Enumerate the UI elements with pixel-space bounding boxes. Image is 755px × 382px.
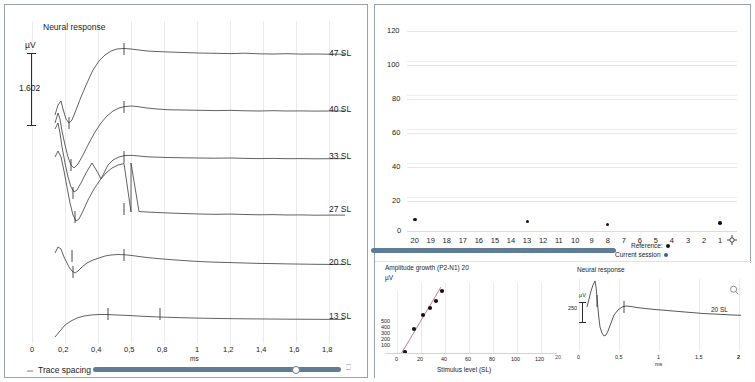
legend-item-reference: Reference: [631, 242, 670, 249]
gridline-h [407, 133, 737, 134]
amplitude-growth-chart[interactable]: Amplitude growth (P2-N1) 20 µV 500 400 3… [375, 263, 561, 379]
x-tick: 0,5 [615, 355, 623, 361]
legend-label-reference: Reference: [631, 242, 663, 249]
x-tick: 4 [670, 237, 674, 245]
x-tick: 20 [411, 237, 419, 245]
gridline-h [407, 197, 737, 198]
scatter-point[interactable] [526, 220, 529, 223]
x-tick: 40 [441, 357, 447, 363]
x-tick: 1 [657, 355, 660, 361]
gridline-h [407, 31, 737, 32]
application-root: Neural response µV 1.602 47 SL 40 SL 33 … [0, 0, 755, 382]
trace-label-20sl: 20 SL [329, 258, 351, 267]
x-tick: 12 [539, 237, 547, 245]
magnifier-icon[interactable] [729, 285, 740, 296]
x-tick: 18 [443, 237, 451, 245]
trace-label-47sl: 47 SL [329, 49, 351, 58]
x-tick: 11 [555, 237, 563, 245]
section-divider [375, 261, 752, 262]
panel-title: Neural response [43, 23, 105, 32]
x-tick: 8 [606, 237, 610, 245]
y-tick: 100 [387, 61, 400, 69]
trace-label-33sl: 33 SL [329, 152, 351, 161]
legend-swatch-reference [666, 244, 670, 248]
trash-icon[interactable]: ⎕ [346, 363, 351, 373]
x-tick: 17 [459, 237, 467, 245]
scatter-point[interactable] [718, 221, 721, 224]
waveform-plot-area[interactable]: Neural response µV 1.602 47 SL 40 SL 33 … [5, 5, 369, 379]
x-tick: 1 [195, 346, 199, 354]
y-tick: 20 [392, 197, 400, 205]
response-trace-label: 20 SL [711, 307, 728, 314]
x-tick: 1 [718, 237, 722, 245]
y-tick: 80 [392, 95, 400, 103]
gridline-h [407, 61, 737, 62]
x-tick: 60 [465, 357, 471, 363]
trace-spacing-slider-handle[interactable] [292, 366, 300, 374]
crosshair-icon[interactable] [727, 235, 737, 245]
x-tick: 16 [475, 237, 483, 245]
gridline-h [407, 163, 737, 164]
y-tick: 40 [392, 163, 400, 171]
amplitude-x-axis-label: Stimulus level (SL) [437, 367, 491, 374]
x-tick: 1,5 [695, 355, 703, 361]
x-tick: 1,4 [256, 346, 266, 354]
trace-spacing-label: Trace spacing [38, 366, 91, 375]
x-tick: 9 [590, 237, 594, 245]
gridline-h [407, 201, 737, 202]
scatter-plot-area[interactable]: 120 100 80 60 40 20 0 201918171615141312… [375, 5, 752, 255]
x-tick: 100 [511, 357, 520, 363]
scalebar-cap-bottom [27, 125, 36, 126]
neural-response-panel: Neural response µV 1.602 47 SL 40 SL 33 … [4, 4, 368, 378]
legend-item-current-session: Current session [615, 251, 668, 258]
session-overview-panel: 120 100 80 60 40 20 0 201918171615141312… [374, 4, 751, 378]
waveform-traces [5, 5, 369, 379]
x-tick: 2 [702, 237, 706, 245]
gridline-h [407, 129, 737, 130]
x-tick: 10 [571, 237, 579, 245]
x-tick: 1,2 [223, 346, 233, 354]
trace-label-27sl: 27 SL [329, 205, 351, 214]
x-tick: 0 [30, 346, 34, 354]
trace-label-13sl: 13 SL [329, 312, 351, 321]
y-tick: 60 [392, 129, 400, 137]
response-x-axis-label: ms [655, 362, 662, 368]
x-axis-label: ms [190, 356, 199, 363]
x-tick: 14 [507, 237, 515, 245]
x-tick-carry: 20 [555, 355, 561, 361]
x-tick: 120 [535, 357, 544, 363]
x-tick: 19 [427, 237, 435, 245]
x-tick: 2 [737, 355, 740, 361]
x-tick: 0,4 [91, 346, 101, 354]
gridline-h [407, 99, 737, 100]
gridline-h-baseline [407, 231, 737, 232]
x-tick: 0,5 [124, 346, 134, 354]
gridline-h [407, 95, 737, 96]
sliders-icon[interactable]: ▬ [27, 367, 33, 373]
x-tick: 1,6 [289, 346, 299, 354]
x-tick: 15 [491, 237, 499, 245]
x-tick: 0 [395, 357, 398, 363]
legend-swatch-current-session [664, 253, 668, 257]
scalebar-value: 1.602 [19, 84, 40, 93]
x-tick: 0,2 [58, 346, 68, 354]
gridline-h [407, 65, 737, 66]
trace-spacing-slider[interactable] [93, 367, 341, 372]
scatter-point[interactable] [606, 223, 609, 226]
x-tick: 7 [622, 237, 626, 245]
neural-response-subchart[interactable]: Neural response µV 250 20 SL [561, 263, 752, 379]
amplitude-x-axis [385, 353, 557, 354]
scatter-point[interactable] [413, 218, 416, 221]
x-tick: 0,8 [157, 346, 167, 354]
gridline-h [407, 167, 737, 168]
x-tick: 0 [577, 355, 580, 361]
x-tick: 1,8 [322, 346, 332, 354]
x-tick: 20 [417, 357, 423, 363]
y-tick: 0 [397, 227, 401, 235]
x-tick: 3 [686, 237, 690, 245]
y-axis-unit: µV [25, 41, 36, 50]
trace-label-40sl: 40 SL [329, 105, 351, 114]
x-tick: 80 [489, 357, 495, 363]
session-range-slider[interactable] [371, 248, 616, 253]
x-tick: 13 [523, 237, 531, 245]
